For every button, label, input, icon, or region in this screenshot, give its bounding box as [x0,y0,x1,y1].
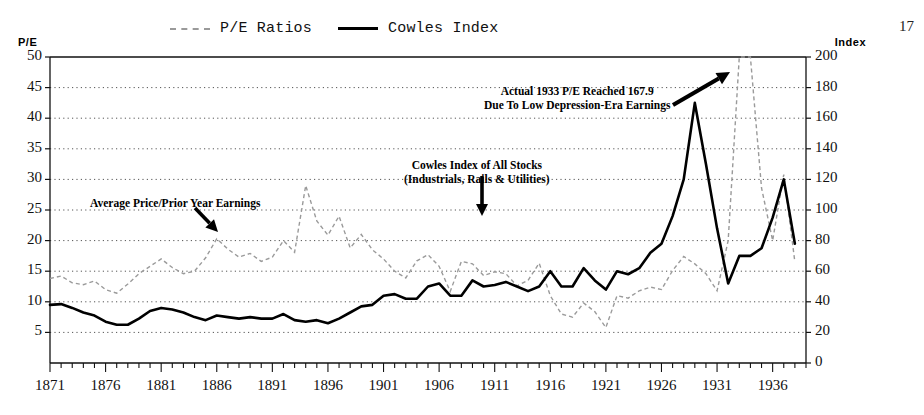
annotation-cowles-index-line-1: Cowles Index of All Stocks [404,158,550,172]
series-line-cowles-index [50,103,795,325]
chart-figure: 17 P/E Index P/E Ratios Cowles Index Act… [0,0,924,415]
annotation-cowles-index-line-2: (Industrials, Rails & Utilities) [404,172,550,186]
annotation-pe-1933: Actual 1933 P/E Reached 167.9Due To Low … [484,84,670,113]
legend-entry-pe-ratios: P/E Ratios [170,20,312,37]
page-number: 17 [899,18,914,35]
annotation-average-price: Average Price/Prior Year Earnings [90,196,260,210]
legend-entry-cowles-index: Cowles Index [338,20,498,37]
annotation-pe-1933-line-1: Actual 1933 P/E Reached 167.9 [484,84,670,98]
annotation-pe-1933-line-2: Due To Low Depression-Era Earnings [484,98,670,112]
chart-legend: P/E Ratios Cowles Index [170,20,498,37]
legend-swatch-dashed-icon [170,28,210,30]
legend-label-cowles-index: Cowles Index [388,20,498,37]
annotation-cowles-index: Cowles Index of All Stocks(Industrials, … [404,158,550,187]
legend-swatch-solid-icon [338,27,378,30]
annotation-average-price-line-1: Average Price/Prior Year Earnings [90,196,260,210]
legend-label-pe-ratios: P/E Ratios [220,20,312,37]
